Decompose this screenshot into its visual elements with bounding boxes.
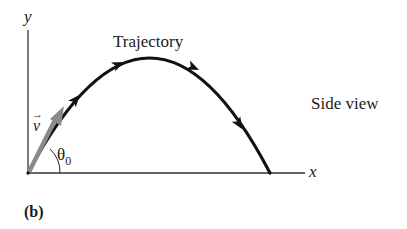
theta-symbol: θ: [57, 145, 65, 164]
y-axis-label: y: [24, 8, 32, 25]
trajectory-label: Trajectory: [113, 33, 183, 50]
theta-subscript: 0: [65, 154, 71, 168]
vector-arrow-icon: →: [32, 109, 43, 120]
side-view-label: Side view: [311, 95, 379, 112]
diagram-canvas: [0, 0, 407, 229]
velocity-label: v →: [33, 118, 40, 134]
angle-label: θ0: [57, 146, 71, 163]
panel-label: (b): [24, 204, 44, 220]
x-axis-label: x: [309, 163, 317, 180]
